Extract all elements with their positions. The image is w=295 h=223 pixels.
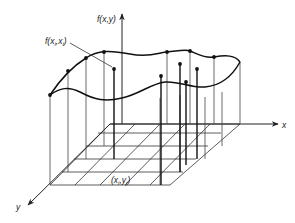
surface [50,50,240,100]
sample-leader-line [70,43,112,67]
x-axis-label: x [281,120,287,130]
surface-diagram: f(x,y) x y f(xi,xi) (xi,yj) [0,0,295,223]
y-axis-label: y [15,202,21,212]
grid-point-label: (xi,yj) [111,175,130,186]
y-axis [28,124,110,205]
surface-front-edge [50,62,240,100]
z-axis-label: f(x,y) [97,14,116,24]
sample-value-label: f(xi,xi) [45,36,67,47]
